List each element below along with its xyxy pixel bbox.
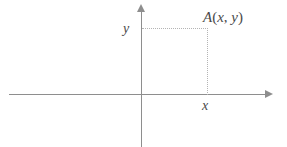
y-axis-value-label: y [123,22,129,36]
point-label: A(x, y) [203,10,243,25]
y-axis-arrowhead-icon [137,4,145,12]
point-abscissa: x [217,9,224,25]
vertical-guide-line [207,28,208,95]
point-name: A [203,9,212,25]
coordinate-plane-figure: A(x, y) y x [0,0,287,147]
x-axis-arrowhead-icon [265,90,273,98]
point-close-paren: ) [238,9,243,25]
y-axis-line [141,10,142,147]
horizontal-guide-line [142,28,208,29]
point-comma: , [224,9,228,25]
x-axis-value-label: x [202,99,208,113]
x-axis-line [9,94,271,95]
point-ordinate: y [231,9,238,25]
